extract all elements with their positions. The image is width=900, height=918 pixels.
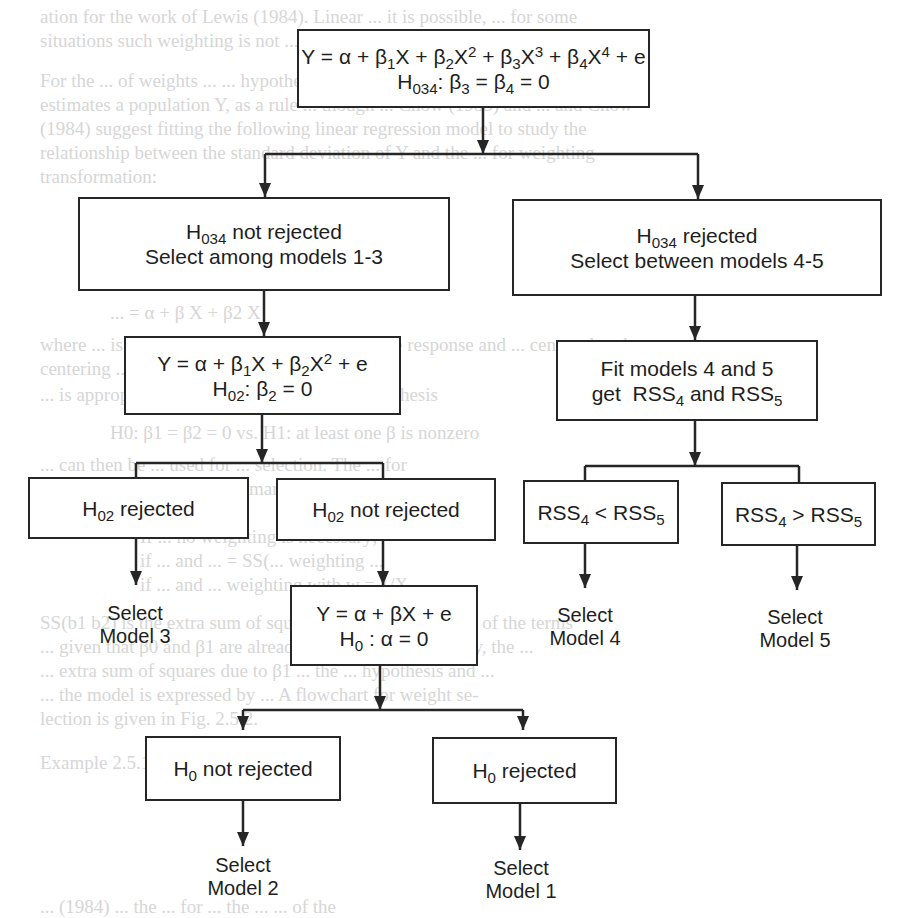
fit-models-label: Fit models 4 and 5 xyxy=(601,356,774,381)
h02-not-rejected-box: H02 not rejected xyxy=(276,478,496,541)
h034-not-rejected-box: H034 not rejected Select among models 1-… xyxy=(78,197,450,291)
h0-rejected-box: H0 rejected xyxy=(432,737,617,804)
full-model-box: Y = α + β1X + β2X2 + β3X3 + β4X4 + e H03… xyxy=(297,29,650,108)
h034-hypothesis: H034: β3 = β4 = 0 xyxy=(397,69,550,94)
h02-not-rejected-label: H02 not rejected xyxy=(312,497,460,522)
model-text: Model 3 xyxy=(90,625,180,648)
select-text: Select xyxy=(198,854,288,877)
select-between-4-5-label: Select between models 4-5 xyxy=(570,248,823,273)
select-text: Select xyxy=(476,857,566,880)
rss4-greater-box: RSS4 > RSS5 xyxy=(721,482,876,546)
get-rss-label: get RSS4 and RSS5 xyxy=(592,381,783,406)
model-text: Model 5 xyxy=(750,629,840,652)
full-model-equation: Y = α + β1X + β2X2 + β3X3 + β4X4 + e xyxy=(301,44,645,69)
quadratic-model-equation: Y = α + β1X + β2X2 + e xyxy=(157,351,368,376)
select-among-1-3-label: Select among models 1-3 xyxy=(145,244,383,269)
linear-model-equation: Y = α + βX + e xyxy=(316,601,451,626)
h0-not-rejected-label: H0 not rejected xyxy=(173,756,312,781)
select-text: Select xyxy=(90,602,180,625)
rss4-less-box: RSS4 < RSS5 xyxy=(523,480,679,544)
select-text: Select xyxy=(540,604,630,627)
rss4-less-label: RSS4 < RSS5 xyxy=(537,500,664,525)
model-text: Model 1 xyxy=(476,880,566,903)
model-text: Model 2 xyxy=(198,877,288,900)
select-model-1: Select Model 1 xyxy=(476,857,566,903)
select-model-3: Select Model 3 xyxy=(90,602,180,648)
h034-not-rejected-label: H034 not rejected xyxy=(186,219,342,244)
h034-rejected-label: H034 rejected xyxy=(637,223,758,248)
fit-models-box: Fit models 4 and 5 get RSS4 and RSS5 xyxy=(556,340,818,421)
h034-rejected-box: H034 rejected Select between models 4-5 xyxy=(512,199,882,296)
model-text: Model 4 xyxy=(540,627,630,650)
select-model-2: Select Model 2 xyxy=(198,854,288,900)
select-model-4: Select Model 4 xyxy=(540,604,630,650)
rss4-greater-label: RSS4 > RSS5 xyxy=(735,502,862,527)
h02-rejected-box: H02 rejected xyxy=(28,477,249,539)
select-text: Select xyxy=(750,606,840,629)
h0-not-rejected-box: H0 not rejected xyxy=(145,736,341,801)
h0-hypothesis: H0 : α = 0 xyxy=(340,626,429,651)
linear-model-box: Y = α + βX + e H0 : α = 0 xyxy=(290,585,478,666)
h0-rejected-label: H0 rejected xyxy=(472,758,576,783)
h02-hypothesis: H02: β2 = 0 xyxy=(213,376,313,401)
h02-rejected-label: H02 rejected xyxy=(82,496,195,521)
select-model-5: Select Model 5 xyxy=(750,606,840,652)
quadratic-model-box: Y = α + β1X + β2X2 + e H02: β2 = 0 xyxy=(124,336,401,415)
